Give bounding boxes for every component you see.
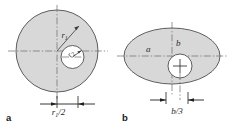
panel-a-caption: a — [6, 112, 12, 123]
diagram-canvas: r1 r2 r1/2 a a — [0, 0, 232, 127]
dim-arrowhead-right-a — [78, 102, 84, 106]
dim-arrowhead-left-a — [51, 102, 57, 106]
dim-label-b: b/3 — [171, 106, 183, 116]
panel-b-caption: b — [122, 112, 128, 123]
dim-arrowhead-right-b — [188, 98, 194, 102]
technical-figure: r1 r2 r1/2 a a — [0, 0, 232, 127]
panel-a-group: r1 r2 r1/2 a — [6, 5, 108, 123]
panel-b-group: a b b/3 b — [117, 22, 228, 123]
semi-major-label: a — [146, 44, 151, 54]
dim-label-a: r1/2 — [52, 107, 66, 118]
dim-arrowhead-left-b — [160, 98, 166, 102]
semi-minor-label: b — [176, 38, 181, 48]
